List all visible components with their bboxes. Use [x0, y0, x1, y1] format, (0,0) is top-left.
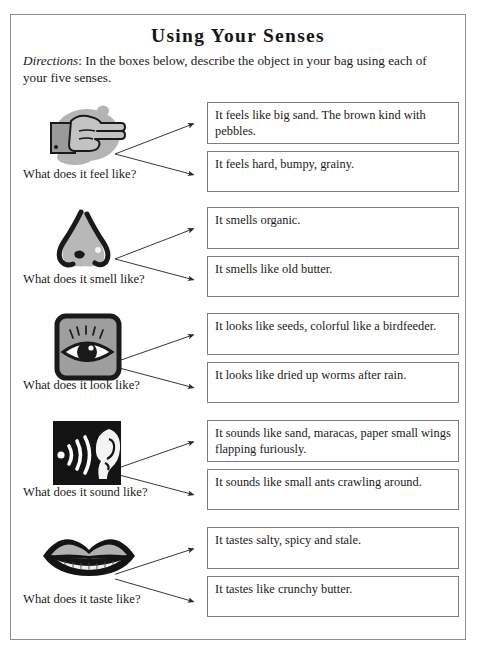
answer-box-hearing-1[interactable]: It sounds like sand, maracas, paper smal… — [207, 420, 459, 462]
lips-icon — [35, 526, 139, 592]
answer-box-smell-2[interactable]: It smells like old butter. — [207, 256, 459, 297]
sense-label-touch: What does it feel like? — [23, 167, 203, 182]
sense-label-sight: What does it look like? — [23, 378, 203, 393]
worksheet-page: Using Your Senses Directions: In the box… — [10, 14, 466, 640]
answer-box-smell-1[interactable]: It smells organic. — [207, 207, 459, 249]
sense-row-sight: What does it look like? It looks like se… — [11, 312, 465, 417]
answer-box-sight-1[interactable]: It looks like seeds, colorful like a bir… — [207, 313, 459, 355]
eye-icon — [35, 312, 139, 378]
ear-icon-art — [35, 419, 139, 489]
eye-icon-art — [35, 312, 139, 382]
page-title: Using Your Senses — [11, 25, 465, 47]
pointing-hand-icon-art — [35, 101, 139, 167]
nose-icon-art — [35, 206, 139, 272]
sense-label-taste: What does it taste like? — [23, 592, 203, 607]
directions-label: Directions — [23, 53, 78, 68]
directions: Directions: In the boxes below, describe… — [23, 53, 453, 87]
answer-box-hearing-2[interactable]: It sounds like small ants crawling aroun… — [207, 469, 459, 510]
directions-text: : In the boxes below, describe the objec… — [23, 53, 427, 85]
sense-row-smell: What does it smell like? It smells organ… — [11, 206, 465, 311]
sense-row-hearing: What does it sound like? It sounds like … — [11, 419, 465, 524]
nose-icon — [35, 206, 139, 272]
ear-icon — [35, 419, 139, 485]
pointing-hand-icon — [35, 101, 139, 167]
sense-row-taste: What does it taste like? It tastes salty… — [11, 526, 465, 631]
answer-box-sight-2[interactable]: It looks like dried up worms after rain. — [207, 362, 459, 403]
sense-label-smell: What does it smell like? — [23, 272, 203, 287]
sense-label-hearing: What does it sound like? — [23, 485, 203, 500]
answer-box-taste-2[interactable]: It tastes like crunchy butter. — [207, 576, 459, 617]
answer-box-touch-1[interactable]: It feels like big sand. The brown kind w… — [207, 102, 459, 144]
answer-box-taste-1[interactable]: It tastes salty, spicy and stale. — [207, 527, 459, 569]
sense-row-touch: What does it feel like? It feels like bi… — [11, 101, 465, 206]
lips-icon-art — [35, 526, 145, 586]
answer-box-touch-2[interactable]: It feels hard, bumpy, grainy. — [207, 151, 459, 192]
